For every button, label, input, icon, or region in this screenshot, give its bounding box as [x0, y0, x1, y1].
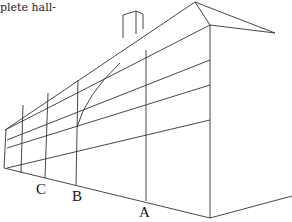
label-c: C [36, 181, 46, 197]
post-1 [21, 105, 23, 173]
mid-rail-line [7, 85, 210, 148]
ground-line-side [210, 196, 292, 218]
post-end [4, 130, 6, 168]
post-b [76, 80, 78, 185]
label-b: B [72, 188, 82, 204]
lower-rail-line [7, 120, 210, 168]
label-a: A [139, 204, 150, 220]
roof-ridge-line [5, 2, 195, 130]
eaves-line [5, 25, 210, 130]
hall-house-diagram: C B A [0, 0, 292, 222]
upper-rail-line [7, 60, 210, 140]
curved-brace [77, 63, 120, 127]
chimney [123, 11, 143, 38]
roof-hip-front [195, 2, 210, 25]
ground-line-front [4, 168, 210, 218]
